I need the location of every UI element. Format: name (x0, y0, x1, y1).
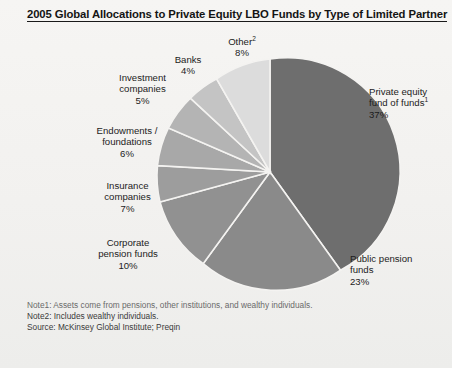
pie-label-corporate-pension-line2: pension funds (63, 248, 193, 259)
pie-label-banks: Banks 4% (160, 54, 216, 77)
pie-label-public-pension-line2: funds (350, 264, 412, 275)
pie-label-public-pension-funds: Public pension funds 23% (350, 253, 412, 287)
pie-label-investment-line2: companies (80, 83, 205, 94)
pie-label-private-equity-line2: fund of funds1 (369, 97, 428, 108)
footnote-marker-2: 2 (252, 35, 256, 42)
pie-label-corporate-pension-funds: Corporate pension funds 10% (63, 237, 193, 271)
pie-label-insurance-line1: Insurance (65, 180, 190, 191)
chart-page: 2005 Global Allocations to Private Equit… (0, 0, 452, 368)
footnote-source: Source: McKinsey Global Institute; Preqi… (27, 322, 312, 333)
pie-label-endowments-foundations: Endowments / foundations 6% (63, 125, 191, 159)
pie-label-public-pension-line1: Public pension (350, 253, 412, 264)
footnote-note2: Note2: Includes wealthy individuals. (27, 311, 312, 322)
pie-label-insurance-line2: companies (65, 191, 190, 202)
pie-label-private-equity-line1: Private equity (369, 86, 428, 97)
pie-label-endowments-line1: Endowments / (63, 125, 191, 136)
pie-label-banks-pct: 4% (160, 65, 216, 76)
pie-label-private-equity-fund-of-funds: Private equity fund of funds1 37% (369, 86, 428, 120)
footnote-note1: Note1: Assets come from pensions, other … (27, 300, 312, 311)
pie-label-banks-line1: Banks (160, 54, 216, 65)
pie-label-insurance-companies: Insurance companies 7% (65, 180, 190, 214)
pie-label-investment-companies: Investment companies 5% (80, 72, 205, 106)
footnote-marker-1: 1 (424, 96, 428, 103)
pie-label-other: Other2 8% (214, 36, 270, 59)
pie-label-endowments-line2: foundations (63, 136, 191, 147)
pie-label-other-line1: Other2 (214, 36, 270, 47)
pie-label-insurance-pct: 7% (65, 203, 190, 214)
pie-label-corporate-pension-line1: Corporate (63, 237, 193, 248)
pie-label-endowments-pct: 6% (63, 148, 191, 159)
pie-label-public-pension-pct: 23% (350, 276, 412, 287)
pie-label-corporate-pension-pct: 10% (63, 260, 193, 271)
footnotes: Note1: Assets come from pensions, other … (27, 300, 312, 334)
pie-label-other-pct: 8% (214, 47, 270, 58)
pie-label-private-equity-pct: 37% (369, 109, 428, 120)
pie-label-investment-pct: 5% (80, 95, 205, 106)
